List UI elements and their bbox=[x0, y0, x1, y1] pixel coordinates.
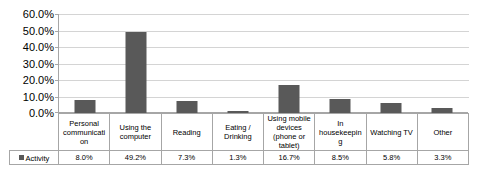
category-line: on bbox=[80, 137, 88, 146]
y-axis-tick-label: 40.0% bbox=[2, 42, 54, 53]
y-axis-tick-label: 30.0% bbox=[2, 59, 54, 70]
bar-reading bbox=[176, 101, 197, 113]
bar-chart: 60.0% 50.0% 40.0% 30.0% 20.0% 10.0% 0.0% bbox=[0, 0, 482, 186]
category-line: In bbox=[337, 119, 343, 128]
category-label-reading: Reading bbox=[161, 114, 212, 151]
category-line: devices bbox=[276, 123, 301, 132]
table-row-categories: Personal communicati on Using the comput… bbox=[10, 114, 469, 151]
y-axis-labels: 60.0% 50.0% 40.0% 30.0% 20.0% 10.0% 0.0% bbox=[0, 14, 54, 113]
bar-slot bbox=[315, 14, 366, 113]
bar-slot bbox=[264, 14, 315, 113]
value-cell-eating-drinking: 1.3% bbox=[212, 151, 263, 165]
legend-label: Activity bbox=[26, 153, 50, 162]
category-line: Watching TV bbox=[370, 128, 413, 137]
bar-in-housekeeping bbox=[330, 99, 351, 113]
category-label-using-mobile-devices: Using mobile devices (phone or tablet) bbox=[264, 114, 315, 151]
category-line: Reading bbox=[173, 128, 201, 137]
table-row-values: Activity 8.0% 49.2% 7.3% 1.3% 16.7% 8.5%… bbox=[10, 151, 469, 165]
category-line: (phone or bbox=[273, 132, 305, 141]
category-line: housekeepin bbox=[319, 128, 362, 137]
bar-slot bbox=[417, 14, 468, 113]
legend-swatch-icon bbox=[19, 155, 24, 160]
value-cell-reading: 7.3% bbox=[161, 151, 212, 165]
bar-using-mobile-devices bbox=[279, 85, 300, 113]
category-line: Drinking bbox=[224, 132, 252, 141]
category-line: Eating / bbox=[225, 123, 250, 132]
bar-slot bbox=[161, 14, 212, 113]
bar-using-the-computer bbox=[125, 32, 146, 113]
category-label-other: Other bbox=[417, 114, 468, 151]
y-axis-tick-label: 60.0% bbox=[2, 9, 54, 20]
value-cell-using-the-computer: 49.2% bbox=[110, 151, 161, 165]
bar-slot bbox=[110, 14, 161, 113]
category-label-in-housekeeping: In housekeepin g bbox=[315, 114, 366, 151]
value-cell-in-housekeeping: 8.5% bbox=[315, 151, 366, 165]
y-axis-tick-label: 10.0% bbox=[2, 92, 54, 103]
table-corner-cell bbox=[10, 114, 59, 151]
legend-entry-activity: Activity bbox=[10, 151, 59, 165]
category-line: computer bbox=[120, 132, 151, 141]
bar-slot bbox=[366, 14, 417, 113]
category-label-using-the-computer: Using the computer bbox=[110, 114, 161, 151]
value-cell-personal-communication: 8.0% bbox=[59, 151, 110, 165]
value-cell-watching-tv: 5.8% bbox=[366, 151, 417, 165]
category-label-watching-tv: Watching TV bbox=[366, 114, 417, 151]
data-table: Personal communicati on Using the comput… bbox=[9, 113, 469, 165]
y-axis-tick-label: 20.0% bbox=[2, 75, 54, 86]
category-line: Using mobile bbox=[267, 114, 310, 123]
category-line: communicati bbox=[63, 128, 105, 137]
bar-personal-communication bbox=[74, 100, 95, 113]
bar-slot bbox=[212, 14, 263, 113]
category-label-personal-communication: Personal communicati on bbox=[59, 114, 110, 151]
category-line: g bbox=[338, 137, 342, 146]
value-cell-using-mobile-devices: 16.7% bbox=[264, 151, 315, 165]
category-line: tablet) bbox=[279, 141, 300, 150]
category-label-eating-drinking: Eating / Drinking bbox=[212, 114, 263, 151]
category-line: Other bbox=[433, 128, 452, 137]
bar-slot bbox=[59, 14, 110, 113]
value-cell-other: 3.3% bbox=[417, 151, 468, 165]
y-axis-tick-label: 50.0% bbox=[2, 26, 54, 37]
category-line: Personal bbox=[69, 119, 99, 128]
bar-watching-tv bbox=[381, 103, 402, 113]
category-line: Using the bbox=[120, 123, 152, 132]
bars-layer bbox=[59, 14, 468, 113]
